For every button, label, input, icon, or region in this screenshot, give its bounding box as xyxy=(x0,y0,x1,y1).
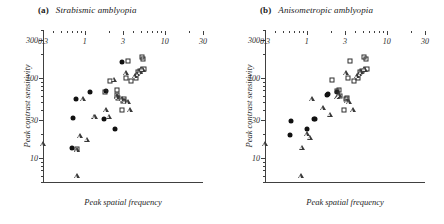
y-tick-label: 10 xyxy=(17,153,38,162)
x-tick-minor xyxy=(72,31,73,33)
x-tick-minor xyxy=(61,31,62,33)
x-tick-major xyxy=(265,31,266,35)
data-point-open-square xyxy=(329,77,334,82)
data-point-open-triangle xyxy=(106,113,112,118)
y-tick-minor xyxy=(263,170,265,171)
x-tick-minor xyxy=(355,31,356,33)
x-axis-title-b: Peak spatial frequency xyxy=(265,197,425,207)
y-tick-minor xyxy=(263,162,265,163)
x-tick-major xyxy=(425,31,426,35)
y-tick-minor xyxy=(263,54,265,55)
panel-a-tag: (a) xyxy=(38,5,49,15)
data-point-open-triangle xyxy=(298,173,304,178)
y-tick-minor xyxy=(41,96,43,97)
data-point-open-triangle xyxy=(111,76,117,81)
y-tick-minor xyxy=(263,102,265,103)
x-tick-minor xyxy=(331,31,332,33)
data-point-open-square xyxy=(123,76,128,81)
x-tick-major xyxy=(387,31,388,35)
y-tick-minor xyxy=(41,134,43,135)
x-tick-minor xyxy=(141,31,142,33)
x-tick-label: 1 xyxy=(83,37,87,46)
x-tick-minor xyxy=(109,31,110,33)
y-tick-label: 30 xyxy=(239,115,260,124)
y-tick-minor xyxy=(41,86,43,87)
x-tick-label: 30 xyxy=(421,37,429,46)
data-point-open-triangle xyxy=(327,111,333,116)
x-tick-major xyxy=(123,31,124,35)
data-point-open-square xyxy=(120,107,125,112)
data-point-open-triangle xyxy=(336,92,342,97)
y-tick-minor xyxy=(263,90,265,91)
data-point-open-triangle xyxy=(92,114,98,119)
panel-a-name: Strabismic amblyopia xyxy=(56,5,137,15)
data-point-filled-circle xyxy=(87,90,92,95)
data-point-open-square xyxy=(141,56,146,61)
data-point-open-triangle xyxy=(262,141,268,146)
panel-b-title: (b)Anisometropic amblyopia xyxy=(260,5,373,15)
data-point-open-square xyxy=(348,58,353,63)
y-tick-minor xyxy=(41,82,43,83)
data-point-open-square xyxy=(363,56,368,61)
x-tick-label: 1 xyxy=(305,37,309,46)
x-tick-major xyxy=(85,31,86,35)
x-axis-title-a: Peak spatial frequency xyxy=(43,197,203,207)
x-tick-label: 3 xyxy=(343,37,347,46)
y-tick-minor xyxy=(41,54,43,55)
data-point-open-square xyxy=(342,107,347,112)
data-point-filled-circle xyxy=(288,132,293,137)
data-point-open-triangle xyxy=(307,134,313,139)
x-tick-label: 10 xyxy=(383,37,391,46)
x-tick-minor xyxy=(53,31,54,33)
y-axis-line-a xyxy=(43,30,44,182)
x-tick-minor xyxy=(289,31,290,33)
y-tick-major xyxy=(261,78,265,79)
y-tick-minor xyxy=(263,82,265,83)
x-tick-major xyxy=(203,31,204,35)
data-point-filled-circle xyxy=(313,116,318,121)
data-point-open-triangle xyxy=(84,136,90,141)
data-point-open-triangle xyxy=(309,96,315,101)
x-tick-minor xyxy=(411,31,412,33)
x-tick-major xyxy=(43,31,44,35)
data-point-open-triangle xyxy=(77,133,83,138)
data-point-open-triangle xyxy=(123,70,129,75)
data-point-open-triangle xyxy=(346,99,352,104)
data-point-open-triangle xyxy=(40,141,46,146)
x-tick-major xyxy=(165,31,166,35)
x-tick-minor xyxy=(383,31,384,33)
x-tick-label: 3 xyxy=(121,37,125,46)
data-point-open-square xyxy=(125,58,130,63)
y-tick-label: 100 xyxy=(17,74,38,83)
data-point-filled-circle xyxy=(74,96,79,101)
y-tick-minor xyxy=(41,90,43,91)
data-point-filled-circle xyxy=(120,59,125,64)
x-tick-minor xyxy=(283,31,284,33)
figure-root: (a)Strabismic amblyopia Peak contrast se… xyxy=(0,0,444,224)
panel-a-title: (a)Strabismic amblyopia xyxy=(38,5,137,15)
x-tick-minor xyxy=(189,31,190,33)
y-tick-minor xyxy=(41,110,43,111)
plot-area-a: 10301003000.3131030 xyxy=(43,30,203,182)
data-point-open-square xyxy=(103,90,108,95)
x-tick-minor xyxy=(294,31,295,33)
data-point-open-triangle xyxy=(127,107,133,112)
x-tick-minor xyxy=(161,31,162,33)
y-tick-major xyxy=(261,120,265,121)
x-tick-label: 0.3 xyxy=(260,37,270,46)
y-tick-minor xyxy=(41,162,43,163)
y-tick-minor xyxy=(263,134,265,135)
data-point-open-triangle xyxy=(299,144,305,149)
panel-b: (b)Anisometropic amblyopia Peak contrast… xyxy=(222,0,444,224)
y-tick-major xyxy=(39,120,43,121)
x-tick-minor xyxy=(303,31,304,33)
y-tick-minor xyxy=(41,182,43,183)
data-point-open-triangle xyxy=(350,107,356,112)
x-tick-minor xyxy=(152,31,153,33)
panel-b-name: Anisometropic amblyopia xyxy=(278,5,373,15)
y-tick-major xyxy=(39,78,43,79)
data-point-open-triangle xyxy=(320,105,326,110)
x-axis-line-b xyxy=(265,182,425,183)
panel-b-tag: (b) xyxy=(260,5,271,15)
x-tick-minor xyxy=(157,31,158,33)
